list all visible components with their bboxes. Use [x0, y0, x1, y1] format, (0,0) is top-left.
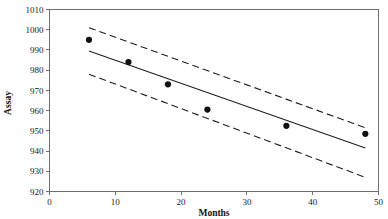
y-tick-label: 1000 [26, 25, 45, 35]
data-point-marker [165, 81, 171, 87]
x-tick-label: 50 [374, 197, 384, 207]
y-tick-label: 970 [30, 86, 44, 96]
y-axis-title: Assay [3, 91, 13, 115]
x-axis-title: Months [198, 208, 229, 218]
x-tick-label: 0 [47, 197, 52, 207]
x-tick-label: 20 [177, 197, 187, 207]
chart-canvas: 92093094095096097098099010001010 0102030… [0, 0, 388, 219]
y-tick-label: 930 [30, 166, 44, 176]
data-point-marker [125, 59, 131, 65]
x-tick-label: 10 [111, 197, 121, 207]
y-tick-label: 980 [30, 65, 44, 75]
y-tick-label: 940 [30, 146, 44, 156]
x-tick-label: 40 [308, 197, 318, 207]
assay-stability-chart: 92093094095096097098099010001010 0102030… [0, 0, 388, 219]
data-point-marker [283, 123, 289, 129]
y-tick-label: 990 [30, 45, 44, 55]
x-tick-label: 30 [242, 197, 252, 207]
data-point-marker [362, 131, 368, 137]
y-tick-label: 920 [30, 187, 44, 197]
data-point-marker [86, 37, 92, 43]
y-tick-label: 950 [30, 126, 44, 136]
data-point-marker [204, 107, 210, 113]
y-tick-label: 960 [30, 106, 44, 116]
y-tick-label: 1010 [26, 5, 45, 15]
chart-background [0, 0, 388, 219]
